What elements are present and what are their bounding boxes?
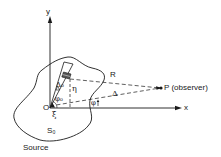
phi-label: φ — [91, 99, 96, 107]
phi0-label: φ₀ — [55, 95, 63, 103]
source-region-label: S₀ — [47, 127, 56, 135]
observer-label: P (observer) — [164, 84, 208, 92]
x-axis-arrowhead — [175, 106, 182, 110]
phi-arrow-tip — [97, 100, 100, 103]
source-caption: Source — [23, 144, 48, 152]
delta-label: Δ — [112, 90, 118, 98]
origin-label: O — [43, 104, 49, 112]
y-axis-label: y — [46, 8, 50, 16]
R-distance-line — [70, 79, 160, 88]
delta-distance-line — [50, 88, 160, 106]
eta-label: η — [72, 85, 77, 93]
x-axis-label: x — [184, 104, 188, 112]
xi-label: ξ — [52, 111, 56, 119]
delta0-label: Δ₀ — [56, 81, 64, 89]
strip-top-cap — [64, 62, 73, 64]
R-label: R — [110, 71, 116, 79]
y-axis-arrowhead — [48, 16, 52, 23]
source-observer-geometry-diagram: y x O ξ η Δ₀ φ₀ φ R Δ P (observer) S₀ So… — [0, 0, 221, 157]
